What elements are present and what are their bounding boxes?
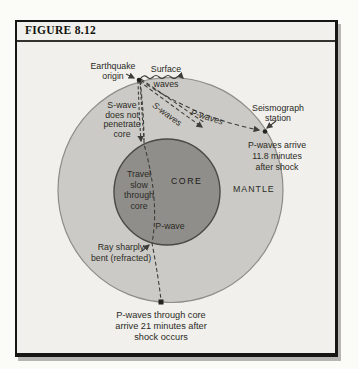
p-through-core-label: P-waves through core arrive 21 minutes a… [102,310,220,343]
core-label: CORE [171,176,205,186]
earth-seismic-diagram: Earthquake origin Surface waves S-wave d… [0,0,358,369]
seismograph-station-dot [263,129,268,134]
earthquake-origin-label: Earthquake origin [87,61,139,81]
seismograph-station-label: Seismograph station [248,103,308,124]
travel-slow-label: Travel slow through core [117,169,161,211]
ray-bent-label: Ray sharply bent (refracted) [86,242,156,263]
mantle-label: MANTLE [233,184,277,194]
p-arrival-label: P-waves arrive 11.8 minutes after shock [242,140,312,173]
s-wave-note-label: S-wave does not penetrate core [97,101,147,139]
core-arrival-marker [159,300,164,305]
surface-waves-label: Surface waves [145,62,187,92]
p-wave-core-label: P-wave [149,221,191,231]
